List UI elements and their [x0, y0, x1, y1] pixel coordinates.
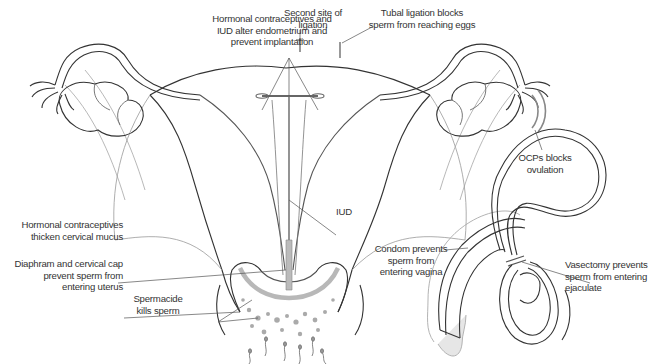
label-iud: IUD — [336, 206, 352, 218]
label-line: IUD — [336, 206, 352, 218]
label-line: Second site of — [268, 7, 358, 19]
label-line: OCPs blocks — [510, 152, 580, 164]
label-line: Hormonal contraceptives — [0, 219, 123, 231]
label-line: thicken cervical mucus — [0, 231, 123, 243]
label-line: sperm from entering — [565, 271, 648, 283]
label-line: Diaphram and cervical cap — [0, 258, 123, 270]
label-line: kills sperm — [128, 305, 188, 317]
spermicide-dots — [241, 298, 335, 336]
label-line: prevent sperm from — [0, 270, 123, 282]
sperm-cells — [249, 337, 327, 364]
label-line: ovulation — [510, 164, 580, 176]
label-condom: Condom prevents sperm from entering vagi… — [370, 243, 452, 278]
label-line: ejaculate — [565, 282, 648, 294]
label-cervical-mucus: Hormonal contraceptives thicken cervical… — [0, 219, 123, 242]
label-line: ligation — [268, 19, 358, 31]
label-line: sperm from — [370, 255, 452, 267]
label-line: Vasectomy prevents — [565, 259, 648, 271]
label-line: entering uterus — [0, 281, 123, 293]
label-spermacide: Spermacide kills sperm — [128, 293, 188, 316]
label-ocps-ovulation: OCPs blocks ovulation — [510, 152, 580, 175]
label-line: Spermacide — [128, 293, 188, 305]
label-line: prevent implantation — [192, 36, 352, 48]
label-second-ligation-site: Second site of ligation — [268, 7, 358, 30]
label-line: entering vagina — [370, 266, 452, 278]
label-line: sperm from reaching eggs — [352, 19, 492, 31]
label-diaphragm-cervical-cap: Diaphram and cervical cap prevent sperm … — [0, 258, 123, 293]
label-line: Condom prevents — [370, 243, 452, 255]
label-line: Tubal ligation blocks — [352, 7, 492, 19]
label-tubal-ligation: Tubal ligation blocks sperm from reachin… — [352, 7, 492, 30]
label-vasectomy: Vasectomy prevents sperm from entering e… — [565, 259, 648, 294]
